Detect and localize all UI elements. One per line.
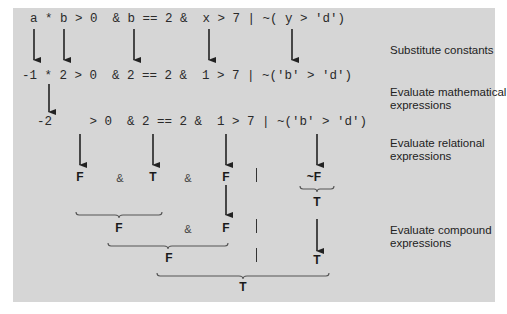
rel-result-3: F xyxy=(222,170,229,184)
step-label-compound-1: Evaluate compound xyxy=(390,224,492,237)
step-label-relational-2: expressions xyxy=(390,150,451,163)
compound-1-right: F xyxy=(222,221,229,235)
compound-1-or-right: T xyxy=(313,253,320,267)
expression-math-evaluated: -2 > 0 & 2 == 2 & 1 > 7 | ~('b' > 'd') xyxy=(37,115,367,129)
not-evaluated: T xyxy=(313,195,320,209)
rel-not-result: ~F xyxy=(307,170,321,184)
expression-substituted: -1 * 2 > 0 & 2 == 2 & 1 > 7 | ~('b' > 'd… xyxy=(22,69,352,83)
compound-1-left: F xyxy=(115,221,122,235)
rel-and-2: & xyxy=(184,171,191,185)
rel-result-2: T xyxy=(149,170,156,184)
compound-1-and: & xyxy=(184,222,191,236)
step-label-relational-1: Evaluate relational xyxy=(390,137,485,150)
step-label-substitute: Substitute constants xyxy=(390,44,494,57)
or-bar-row6 xyxy=(256,248,257,262)
or-bar-row4 xyxy=(256,168,257,182)
rel-result-1: F xyxy=(76,170,83,184)
final-result: T xyxy=(239,280,246,294)
step-label-math-2: expressions xyxy=(390,99,451,112)
step-label-compound-2: expressions xyxy=(390,237,451,250)
or-bar-row5 xyxy=(256,219,257,233)
step-label-math-1: Evaluate mathematical xyxy=(390,86,506,99)
expression-original: a * b > 0 & b == 2 & x > 7 | ~( y > 'd') xyxy=(30,12,345,26)
rel-and-1: & xyxy=(116,171,123,185)
compound-2-left: F xyxy=(165,251,172,265)
